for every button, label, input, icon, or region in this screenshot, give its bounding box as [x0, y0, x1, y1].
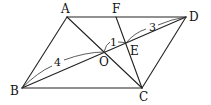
- measure-ED: 3: [149, 21, 156, 34]
- label-B: B: [10, 84, 19, 98]
- diagonal-BD: [22, 17, 186, 88]
- label-D: D: [189, 10, 199, 24]
- label-O: O: [99, 55, 109, 69]
- label-E: E: [130, 44, 139, 58]
- parallelogram-diagram: 4 1 3 A F D B C O E: [0, 0, 211, 105]
- label-C: C: [139, 90, 148, 104]
- measure-OE: 1: [110, 36, 117, 49]
- label-A: A: [60, 2, 70, 16]
- measure-BO: 4: [54, 56, 61, 69]
- label-F: F: [112, 2, 120, 16]
- segment-AB: [22, 17, 67, 88]
